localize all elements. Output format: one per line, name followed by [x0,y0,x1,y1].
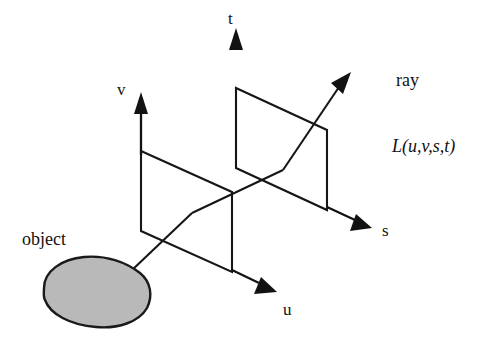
ray-segment-2 [283,87,339,170]
light-field-diagram: t v s u ray L(u,v,s,t) object [0,0,491,347]
st-plane [236,88,327,210]
diagram-canvas: t v s u ray L(u,v,s,t) object [0,0,491,347]
s-axis-arrowhead [350,214,372,231]
u-axis-shaft [232,270,259,283]
uv-plane [141,151,232,272]
ray-arrowhead [331,72,351,94]
ray-segment-0 [130,213,192,272]
radiance-function-label: L(u,v,s,t) [391,136,455,157]
ray-label: ray [396,70,419,90]
u-axis-arrowhead [254,277,277,294]
v-axis-label: v [117,80,126,99]
t-axis-arrowhead [229,28,243,50]
object-label: object [22,229,66,249]
s-axis-shaft [327,207,355,220]
u-axis-label: u [283,300,292,319]
ray-segments [130,87,339,272]
s-axis-label: s [382,221,389,240]
axis-shafts [141,110,355,283]
ray-segment-1 [192,170,283,213]
t-axis-label: t [228,9,233,28]
